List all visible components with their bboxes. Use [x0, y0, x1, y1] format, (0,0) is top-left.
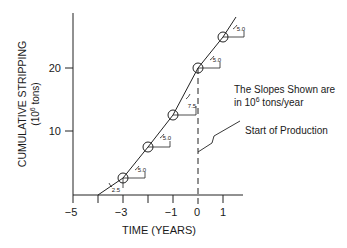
y-axis-title-line1: CUMULATIVE STRIPPING	[16, 41, 28, 167]
slope-label-6: 5.0	[237, 26, 246, 32]
x-axis-title: TIME (YEARS)	[122, 224, 196, 236]
y-axis-title: CUMULATIVE STRIPPING (106 tons)	[16, 41, 41, 167]
start-of-production-label: Start of Production	[245, 125, 328, 136]
y-tick-label-10: 10	[49, 125, 61, 137]
slope-label-5: 5.0	[213, 57, 222, 63]
cumulative-stripping-line	[98, 17, 236, 195]
slope-label-3: 5.0	[163, 135, 172, 141]
slopes-note-line2: in 106 tons/year	[234, 96, 304, 108]
slope-label-1: 2.5	[112, 187, 121, 193]
slopes-note-line1: The Slopes Shown are	[234, 84, 336, 95]
x-tick-label-m3: −3	[115, 206, 128, 218]
x-tick-label-0: 0	[194, 206, 200, 218]
y-axis-title-line2: (106 tons)	[29, 82, 41, 125]
chart: 20 10 −5 −3 −1 0 1 TIME (YEARS) CUMULATI…	[0, 0, 347, 248]
y-tick-label-20: 20	[49, 62, 61, 74]
x-tick-label-1: 1	[220, 206, 226, 218]
start-of-production-leader	[198, 121, 240, 152]
x-tick-label-m1: −1	[165, 206, 178, 218]
x-tick-label-m5: −5	[65, 206, 78, 218]
slope-label-4: 7.5	[188, 103, 197, 109]
slope-label-2: 5.0	[138, 167, 147, 173]
